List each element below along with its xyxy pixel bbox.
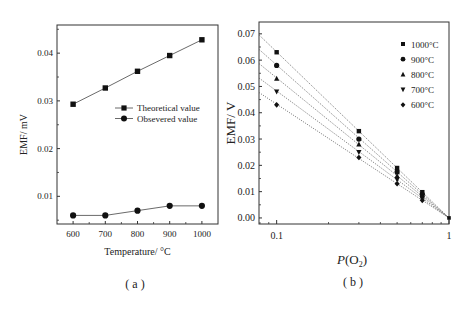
chart-b-point-diamond <box>274 102 279 108</box>
chart-a-plot-frame <box>57 25 218 224</box>
chart-b-legend-marker-diamond <box>401 102 406 107</box>
figure: 0.010.020.030.046007008009001000 EMF/ mV… <box>0 0 467 311</box>
chart-b-legend-label: 900°C <box>411 55 434 65</box>
chart-a-x-tick-label: 700 <box>99 229 113 239</box>
chart-a-point-square <box>167 53 172 58</box>
chart-a-y-tick-label: 0.01 <box>37 191 53 201</box>
chart-b-legend: 1000°C900°C800°C700°C600°C <box>401 40 439 111</box>
chart-b-x-axis-title: P(O2) <box>336 252 367 269</box>
chart-b-point-square <box>357 129 361 133</box>
chart-a-legend-marker-circle <box>121 116 127 122</box>
chart-b-panel-label: ( b ) <box>343 275 363 289</box>
chart-b-legend-label: 1000°C <box>411 40 439 50</box>
chart-b-point-square <box>274 50 278 54</box>
chart-b-legend-marker-square <box>401 42 405 46</box>
chart-b-y-axis-title: EMF/ V <box>223 101 238 144</box>
chart-b-legend-label: 700°C <box>411 85 434 95</box>
chart-a-point-circle <box>70 212 76 218</box>
chart-b-point-triangle-down <box>356 150 361 155</box>
chart-b-y-tick-label: 0.05 <box>238 81 256 92</box>
chart-b-x-tick-label: 0.1 <box>270 230 283 241</box>
chart-a-x-tick-label: 900 <box>163 229 177 239</box>
chart-a-series <box>70 37 205 218</box>
chart-b-point-triangle-down <box>274 90 279 95</box>
chart-b-x-axis-title-paren: (O <box>345 252 359 267</box>
chart-a-legend: Theoretical valueObsevered value <box>115 103 200 124</box>
chart-b-fit-line-4 <box>259 92 449 217</box>
chart-a-point-circle <box>102 212 108 218</box>
chart-b-point-origin <box>447 216 451 220</box>
chart-a-y-tick-label: 0.02 <box>37 144 53 154</box>
chart-a-x-tick-label: 1000 <box>193 229 212 239</box>
chart-b-legend-marker-triangle-up <box>401 72 406 77</box>
chart-b-y-tick-label: 0.01 <box>238 186 256 197</box>
chart-b-legend-marker-triangle-down <box>401 88 406 93</box>
chart-b-legend-label: 600°C <box>411 100 434 110</box>
chart-b-point-diamond <box>395 181 400 187</box>
chart-b-y-tick-label: 0.03 <box>238 134 256 145</box>
chart-a-y-tick-label: 0.03 <box>37 96 53 106</box>
chart-a-point-square <box>70 102 75 107</box>
chart-a: 0.010.020.030.046007008009001000 EMF/ mV… <box>18 25 218 291</box>
chart-a-point-circle <box>167 203 173 209</box>
chart-b-point-circle <box>274 63 279 68</box>
chart-a-y-tick-label: 0.04 <box>37 48 53 58</box>
chart-b-y-tick-label: 0.04 <box>238 107 256 118</box>
chart-b-y-tick-label: 0.06 <box>238 55 256 66</box>
chart-a-point-square <box>103 85 108 90</box>
chart-a-y-axis-title: EMF/ mV <box>18 113 29 155</box>
chart-b-x-axis-title-close: ) <box>363 252 367 267</box>
chart-a-x-axis-title: Temperature/ °C <box>104 246 171 257</box>
chart-b-y-tick-label: 0.07 <box>238 28 256 39</box>
chart-b: 0.000.010.020.030.040.050.060.070.11 EMF… <box>223 22 452 289</box>
chart-b-x-tick-label: 1 <box>447 230 452 241</box>
chart-a-point-circle <box>199 203 205 209</box>
chart-b-y-tick-label: 0.00 <box>238 212 256 223</box>
chart-a-point-square <box>199 37 204 42</box>
chart-a-point-square <box>135 69 140 74</box>
chart-a-legend-label: Obsevered value <box>137 114 197 124</box>
chart-b-point-circle <box>356 136 361 141</box>
chart-b-x-axis-title-main: P <box>336 252 345 267</box>
chart-a-panel-label: ( a ) <box>125 277 144 291</box>
chart-a-x-tick-label: 800 <box>131 229 145 239</box>
chart-b-point-triangle-up <box>356 142 361 147</box>
chart-a-legend-marker-square <box>121 105 126 110</box>
chart-b-legend-label: 800°C <box>411 70 434 80</box>
chart-b-legend-marker-circle <box>401 57 406 62</box>
chart-a-legend-label: Theoretical value <box>137 103 200 113</box>
chart-b-point-diamond <box>356 155 361 161</box>
chart-a-ticks: 0.010.020.030.046007008009001000 <box>37 29 211 239</box>
chart-b-point-triangle-up <box>274 76 279 81</box>
chart-b-y-tick-label: 0.02 <box>238 160 256 171</box>
chart-a-x-tick-label: 600 <box>66 229 80 239</box>
chart-a-point-circle <box>134 208 140 214</box>
